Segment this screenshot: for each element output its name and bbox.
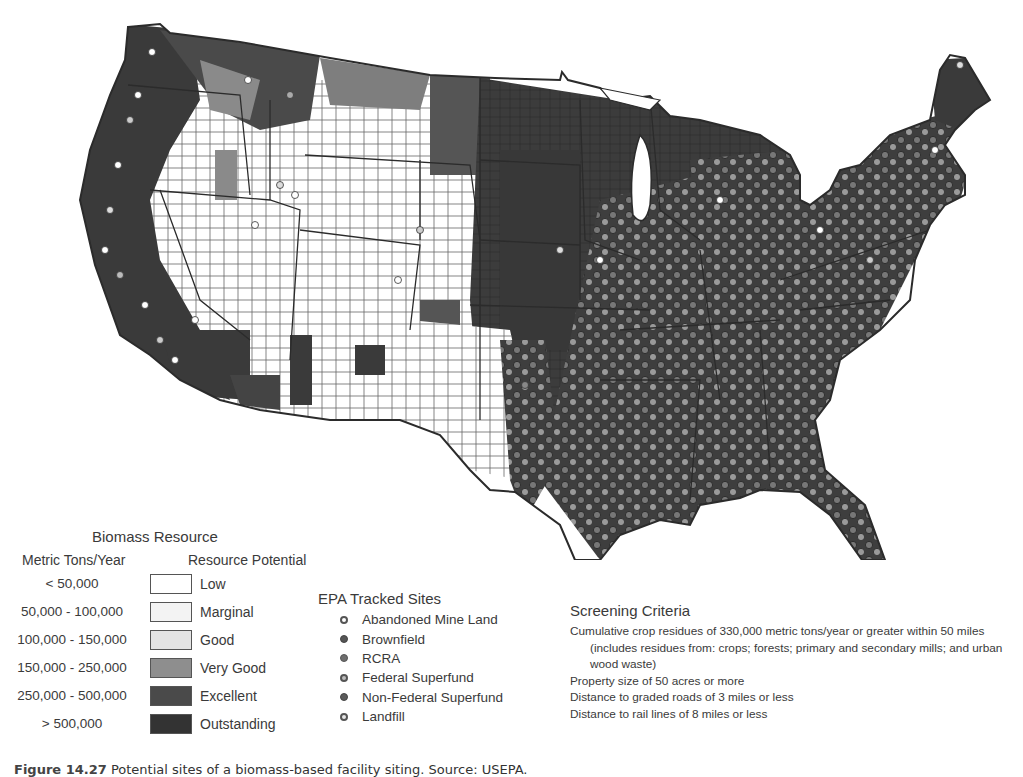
- epa-legend-item: Federal Superfund: [318, 668, 568, 687]
- potential-label: Low: [200, 576, 226, 592]
- landfill-marker-icon: [340, 713, 348, 721]
- potential-column-header: Resource Potential: [188, 552, 306, 568]
- figure-caption: Figure 14.27 Potential sites of a biomas…: [14, 762, 527, 777]
- metric-column-header: Metric Tons/Year: [22, 552, 126, 568]
- screening-title: Screening Criteria: [570, 602, 1020, 619]
- epa-legend-item: Landfill: [318, 707, 568, 726]
- biomass-row: < 50,000 Low: [0, 574, 300, 596]
- criteria-item: Distance to rail lines of 8 miles or les…: [570, 706, 1020, 723]
- potential-label: Good: [200, 632, 234, 648]
- epa-item-label: Federal Superfund: [362, 670, 474, 685]
- map-regions: [0, 0, 1023, 560]
- swatch-outstanding: [150, 714, 192, 734]
- range-value: 50,000 - 100,000: [0, 604, 144, 619]
- screening-criteria: Screening Criteria Cumulative crop resid…: [570, 602, 1020, 722]
- biomass-row: 50,000 - 100,000 Marginal: [0, 602, 300, 624]
- range-value: 100,000 - 150,000: [0, 632, 144, 647]
- non-federal-superfund-marker-icon: [340, 693, 348, 701]
- abandoned-mine-marker-icon: [340, 616, 348, 624]
- biomass-row: 250,000 - 500,000 Excellent: [0, 686, 300, 708]
- swatch-good: [150, 630, 192, 650]
- epa-item-label: Landfill: [362, 709, 405, 724]
- range-value: > 500,000: [0, 716, 144, 731]
- criteria-item: Distance to graded roads of 3 miles or l…: [570, 689, 1020, 706]
- rcra-marker-icon: [340, 654, 348, 662]
- brownfield-marker-icon: [340, 635, 348, 643]
- biomass-legend-title: Biomass Resource: [92, 528, 218, 545]
- epa-legend-item: RCRA: [318, 649, 568, 668]
- epa-item-label: Abandoned Mine Land: [362, 612, 498, 627]
- biomass-row: > 500,000 Outstanding: [0, 714, 300, 736]
- range-value: 250,000 - 500,000: [0, 688, 144, 703]
- swatch-low: [150, 574, 192, 594]
- range-value: 150,000 - 250,000: [0, 660, 144, 675]
- epa-sites-legend: EPA Tracked Sites Abandoned Mine Land Br…: [318, 590, 568, 726]
- federal-superfund-marker-icon: [340, 674, 348, 682]
- criteria-item: Cumulative crop residues of 330,000 metr…: [570, 623, 1020, 673]
- epa-legend-item: Non-Federal Superfund: [318, 688, 568, 707]
- biomass-row: 150,000 - 250,000 Very Good: [0, 658, 300, 680]
- swatch-very-good: [150, 658, 192, 678]
- swatch-marginal: [150, 602, 192, 622]
- biomass-row: 100,000 - 150,000 Good: [0, 630, 300, 652]
- epa-item-label: Brownfield: [362, 632, 425, 647]
- criteria-item: Property size of 50 acres or more: [570, 673, 1020, 690]
- epa-item-label: RCRA: [362, 651, 400, 666]
- potential-label: Excellent: [200, 688, 257, 704]
- figure-number: Figure 14.27: [14, 762, 107, 777]
- us-biomass-map: [0, 0, 1023, 560]
- epa-legend-title: EPA Tracked Sites: [318, 590, 568, 607]
- potential-label: Very Good: [200, 660, 266, 676]
- swatch-excellent: [150, 686, 192, 706]
- epa-legend-item: Brownfield: [318, 629, 568, 648]
- range-value: < 50,000: [0, 576, 144, 591]
- caption-text: Potential sites of a biomass-based facil…: [111, 762, 528, 777]
- epa-item-label: Non-Federal Superfund: [362, 690, 503, 705]
- potential-label: Outstanding: [200, 716, 276, 732]
- epa-legend-item: Abandoned Mine Land: [318, 610, 568, 629]
- potential-label: Marginal: [200, 604, 254, 620]
